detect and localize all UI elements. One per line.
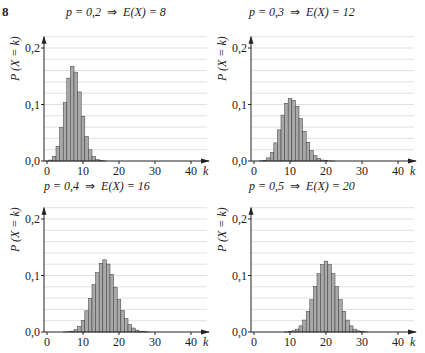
bar [85, 311, 89, 332]
y-tick-label: 0,1 [25, 269, 40, 283]
x-tick-label: 0 [44, 164, 50, 178]
bar [63, 103, 67, 161]
bar [56, 146, 60, 161]
y-axis-label: P (X = k) [215, 36, 229, 82]
x-tick-label: 40 [392, 164, 404, 178]
bar [67, 78, 71, 161]
x-axis-label: k [410, 164, 416, 178]
bar [274, 143, 278, 161]
bar [60, 128, 64, 161]
bar [328, 265, 332, 332]
y-tick-label: 0,0 [232, 154, 247, 168]
title-e: E(X) = 12 [305, 5, 355, 19]
bar [295, 106, 299, 161]
bar [99, 263, 103, 332]
bar [335, 286, 339, 332]
title-e: E(X) = 8 [122, 5, 166, 19]
x-tick-label: 40 [185, 335, 197, 349]
x-tick-label: 30 [149, 164, 161, 178]
x-axis-label: k [410, 335, 416, 349]
x-tick-label: 20 [113, 335, 125, 349]
bar [346, 320, 350, 332]
x-tick-label: 40 [392, 335, 404, 349]
title-arrow: ⇒ [107, 5, 117, 19]
bar [92, 285, 96, 332]
bar [106, 264, 110, 332]
bar [313, 286, 317, 332]
title-p: p = 0,2 [65, 5, 101, 19]
bar [349, 326, 353, 332]
panel-title: p = 0,4⇒E(X) = 16 [43, 179, 150, 193]
bar [121, 310, 125, 332]
exercise-number: 8 [2, 4, 9, 19]
x-tick-label: 0 [251, 335, 257, 349]
bar [310, 300, 314, 332]
bar [124, 319, 128, 332]
x-tick-label: 0 [44, 335, 50, 349]
title-arrow: ⇒ [85, 179, 95, 193]
x-tick-label: 0 [251, 164, 257, 178]
x-tick-label: 30 [356, 164, 368, 178]
x-axis-arrow-icon [201, 330, 210, 335]
bar [78, 92, 82, 161]
bar [114, 287, 118, 332]
bar [103, 260, 107, 332]
bar [306, 311, 310, 332]
x-tick-label: 10 [77, 164, 89, 178]
bar [285, 103, 289, 161]
bar [292, 100, 296, 161]
bar [313, 156, 317, 161]
panel-2: 0,00,10,2010203040kP (X = k)p = 0,3⇒E(X)… [215, 5, 417, 178]
bar [277, 130, 281, 161]
x-tick-label: 20 [113, 164, 125, 178]
figure: 8 0,00,10,2010203040kP (X = k)p = 0,2⇒E(… [0, 0, 425, 353]
bar [303, 320, 307, 332]
bar [303, 131, 307, 161]
x-axis-arrow-icon [201, 159, 210, 164]
x-tick-label: 10 [284, 164, 296, 178]
y-tick-label: 0,0 [25, 325, 40, 339]
x-axis-label: k [203, 335, 209, 349]
bar [117, 300, 121, 332]
title-p: p = 0,4 [43, 179, 79, 193]
bar [281, 115, 285, 161]
x-tick-label: 20 [320, 335, 332, 349]
x-tick-label: 20 [320, 164, 332, 178]
y-tick-label: 0,2 [25, 212, 40, 226]
x-tick-label: 10 [284, 335, 296, 349]
x-axis-arrow-icon [408, 330, 417, 335]
title-p: p = 0,3 [248, 5, 284, 19]
y-tick-label: 0,1 [232, 98, 247, 112]
panel-title: p = 0,5⇒E(X) = 20 [248, 179, 355, 193]
panel-1: 0,00,10,2010203040kP (X = k)p = 0,2⇒E(X)… [8, 5, 210, 178]
bar [270, 153, 274, 161]
bar [88, 150, 92, 161]
bar [128, 324, 132, 332]
bar [310, 150, 314, 161]
bar [306, 142, 310, 161]
y-tick-label: 0,1 [25, 98, 40, 112]
bar [52, 156, 56, 161]
bar [339, 300, 343, 332]
y-tick-label: 0,2 [232, 41, 247, 55]
bar [88, 298, 92, 332]
bar [342, 311, 346, 332]
bar [92, 157, 96, 161]
title-e: E(X) = 16 [100, 179, 150, 193]
bar [132, 328, 136, 332]
panel-title: p = 0,2⇒E(X) = 8 [65, 5, 166, 19]
bar [96, 273, 100, 332]
y-tick-label: 0,2 [25, 41, 40, 55]
title-p: p = 0,5 [248, 179, 284, 193]
bar [321, 265, 325, 332]
panel-4: 0,00,10,2010203040kP (X = k)p = 0,5⇒E(X)… [215, 179, 417, 349]
x-tick-label: 30 [356, 335, 368, 349]
title-arrow: ⇒ [290, 5, 300, 19]
bar [288, 99, 292, 161]
y-axis-label: P (X = k) [8, 36, 22, 82]
bar [74, 72, 78, 161]
y-tick-label: 0,0 [232, 325, 247, 339]
bar [81, 116, 85, 161]
bar [331, 274, 335, 332]
bar [324, 261, 328, 332]
